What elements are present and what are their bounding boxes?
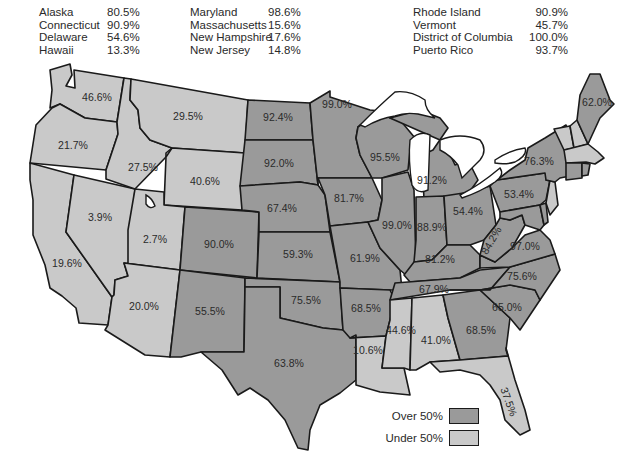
label-wi: 95.5% [370,151,400,163]
state-maine [577,74,614,144]
label-pa: 53.4% [504,188,534,200]
legend-item-over: Over 50% [385,405,479,427]
label-nd: 92.4% [263,111,293,123]
legend-item-under: Under 50% [385,427,479,449]
label-ny: 76.3% [524,155,554,167]
state-connecticut [566,163,582,180]
label-nc: 75.6% [507,270,537,282]
label-al: 41.0% [421,334,451,346]
legend: Over 50% Under 50% [385,405,479,449]
label-ga: 68.5% [466,324,496,336]
label-wy: 40.6% [190,175,220,187]
label-ms: 44.6% [386,324,416,336]
label-ks: 59.3% [283,248,313,260]
state-rhode-island [582,163,590,176]
label-tn: 67.9% [419,283,449,295]
label-id: 27.5% [128,161,158,173]
label-mo: 61.9% [350,252,380,264]
label-az: 20.0% [129,300,159,312]
label-ne: 67.4% [267,202,297,214]
label-nv: 3.9% [88,211,112,223]
us-choropleth-map: 46.6% 21.7% 19.6% 3.9% 27.5% 29.5% 40.6%… [0,0,642,470]
label-mi: 91.2% [417,174,447,186]
label-ar: 68.5% [351,302,381,314]
legend-swatch-over [449,408,479,424]
label-ok: 75.5% [291,294,321,306]
label-nm: 55.5% [195,305,225,317]
lake-ontario [495,148,526,164]
label-in: 88.9% [417,221,447,233]
label-ut: 2.7% [143,233,167,245]
label-ca: 19.6% [52,257,82,269]
legend-swatch-under [449,430,479,446]
label-ky: 81.2% [425,253,455,265]
label-il: 99.0% [382,219,412,231]
label-wa: 46.6% [82,91,112,103]
label-me: 62.0% [582,96,612,108]
label-va: 97.0% [510,240,540,252]
legend-label-over: Over 50% [385,410,443,422]
label-la: 10.6% [353,344,383,356]
label-mn: 99.0% [322,98,352,110]
label-or: 21.7% [58,139,88,151]
label-co: 90.0% [204,238,234,250]
label-tx: 63.8% [274,357,304,369]
legend-label-under: Under 50% [385,432,443,444]
label-ia: 81.7% [334,192,364,204]
label-sd: 92.0% [264,157,294,169]
label-oh: 54.4% [453,205,483,217]
label-mt: 29.5% [173,110,203,122]
label-sc: 65.0% [492,301,522,313]
